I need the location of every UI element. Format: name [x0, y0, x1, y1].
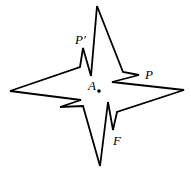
label-p: P [144, 67, 153, 82]
label-a: A [87, 78, 96, 93]
star-diagram: A P P′ F [0, 0, 191, 174]
center-point-a [97, 89, 101, 93]
label-f: F [112, 133, 122, 148]
star-polygon [10, 6, 184, 166]
label-p-prime: P′ [74, 32, 86, 47]
